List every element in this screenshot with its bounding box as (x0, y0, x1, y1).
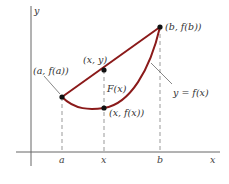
point-chord (101, 67, 106, 72)
point-start (59, 94, 64, 99)
secant-diagram: y x a x b (a, f(a)) (x, y) (x, f(x)) (b,… (0, 0, 229, 184)
point-curve (101, 105, 106, 110)
tick-x: x (101, 154, 107, 165)
leader-line-curve (151, 63, 172, 84)
leader-line-start (44, 76, 60, 94)
label-curve: y = f(x) (172, 87, 209, 98)
tick-b: b (157, 154, 163, 165)
point-end (157, 24, 162, 29)
x-axis-label: x (210, 154, 216, 165)
curve-f (62, 27, 160, 109)
label-gap: F(x) (106, 83, 127, 94)
tick-a: a (59, 154, 65, 165)
label-start-point: (a, f(a)) (33, 65, 69, 76)
y-axis-label: y (33, 5, 40, 16)
label-end-point: (b, f(b)) (165, 21, 202, 32)
label-chord-point: (x, y) (83, 54, 107, 65)
label-curve-point: (x, f(x)) (109, 107, 144, 118)
